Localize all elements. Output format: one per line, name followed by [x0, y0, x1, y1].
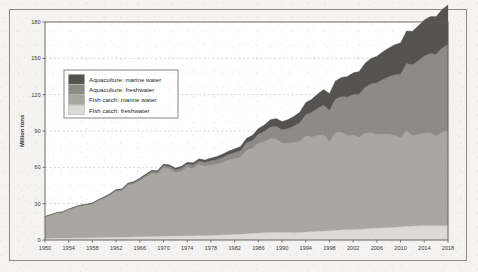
legend-label: Aquaculture: marine water — [89, 76, 161, 83]
y-tick-label: 60 — [34, 164, 40, 170]
legend-label: Fish catch: freshwater — [89, 107, 150, 114]
legend-swatch — [69, 95, 85, 105]
x-tick-label: 1954 — [62, 245, 74, 251]
x-tick-label: 1966 — [134, 245, 146, 251]
legend-swatch — [69, 105, 85, 115]
x-axis-ticks: 1950195419581962196619701974197819821986… — [39, 240, 454, 251]
x-tick-label: 1990 — [276, 245, 288, 251]
legend-swatch — [69, 85, 85, 95]
chart-legend: Aquaculture: marine waterAquaculture: fr… — [64, 70, 178, 118]
legend-swatch — [69, 75, 85, 85]
x-tick-label: 2002 — [347, 245, 359, 251]
y-tick-label: 90 — [34, 128, 40, 134]
x-tick-label: 2010 — [394, 245, 406, 251]
x-tick-label: 1998 — [323, 245, 335, 251]
y-tick-label: 0 — [37, 237, 40, 243]
x-tick-label: 1982 — [228, 245, 240, 251]
x-tick-label: 1974 — [181, 245, 193, 251]
x-tick-label: 2018 — [442, 245, 454, 251]
x-tick-label: 1994 — [300, 245, 312, 251]
x-tick-label: 1962 — [110, 245, 122, 251]
y-tick-label: 120 — [31, 92, 40, 98]
legend-label: Aquaculture: freshwater — [89, 86, 154, 93]
x-tick-label: 1986 — [252, 245, 264, 251]
x-tick-label: 1950 — [39, 245, 51, 251]
y-tick-label: 30 — [34, 201, 40, 207]
y-axis-title: Million tons — [19, 115, 25, 147]
y-axis-ticks: 0306090120150180 — [31, 19, 45, 243]
x-tick-label: 1978 — [205, 245, 217, 251]
x-tick-label: 2006 — [371, 245, 383, 251]
y-tick-label: 180 — [31, 19, 40, 25]
x-tick-label: 2014 — [418, 245, 430, 251]
figure-container: 1950195419581962196619701974197819821986… — [0, 0, 478, 272]
legend-label: Fish catch: marine water — [89, 96, 156, 103]
y-tick-label: 150 — [31, 55, 40, 61]
x-tick-label: 1958 — [86, 245, 98, 251]
stacked-area-chart: 1950195419581962196619701974197819821986… — [0, 0, 478, 272]
x-tick-label: 1970 — [157, 245, 169, 251]
